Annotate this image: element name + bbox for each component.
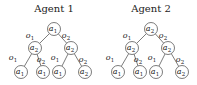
- observation-label: o1: [9, 53, 17, 63]
- tree-edge: [121, 54, 128, 67]
- observation-label: o2: [176, 55, 184, 65]
- tree-title: Agent 2: [130, 3, 171, 14]
- observation-label: o2: [62, 31, 70, 41]
- tree-edge: [24, 54, 31, 67]
- tree-edge: [159, 54, 165, 66]
- observation-label: o1: [26, 31, 34, 41]
- policy-tree-agent-1: Agent 1o1o2o1o2o1o2a1a2a2a1a1a1a2: [9, 3, 92, 79]
- observation-label: o2: [134, 55, 142, 65]
- observation-label: o1: [123, 31, 131, 41]
- tree-edge: [40, 34, 50, 44]
- tree-edge: [62, 54, 68, 66]
- observation-label: o1: [148, 53, 156, 63]
- observation-label: o1: [51, 53, 59, 63]
- observation-label: o2: [37, 55, 45, 65]
- policy-trees-diagram: Agent 1o1o2o1o2o1o2a1a2a2a1a1a1a2Agent 2…: [0, 0, 197, 85]
- observation-label: o1: [106, 53, 114, 63]
- tree-title: Agent 1: [33, 3, 74, 14]
- tree-edge: [137, 34, 147, 44]
- observation-label: o2: [159, 31, 167, 41]
- observation-label: o2: [79, 55, 87, 65]
- policy-tree-agent-2: Agent 2o1o2o1o2o1o2a2a2a2a1a1a1a2: [106, 3, 189, 79]
